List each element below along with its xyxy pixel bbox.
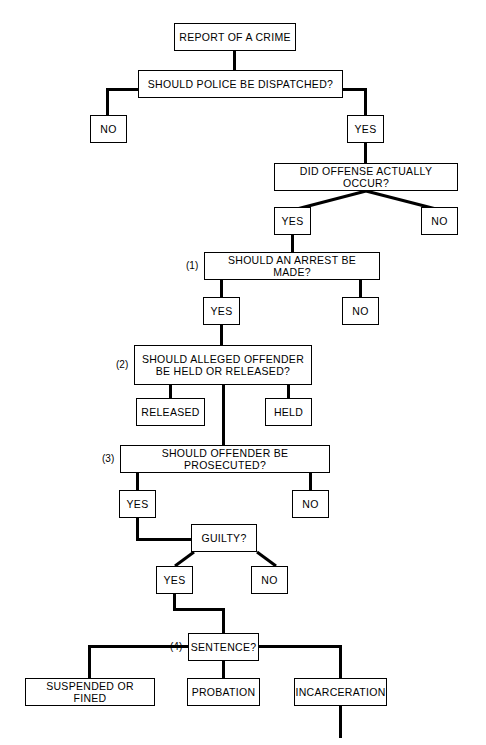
node-label: NO: [257, 574, 281, 586]
node-label: YES: [160, 574, 190, 586]
node-label: RELEASED: [137, 406, 203, 418]
node-label: NO: [298, 498, 322, 510]
node-label: SHOULD POLICE BE DISPATCHED?: [144, 78, 337, 90]
node-arrest-no[interactable]: NO: [342, 297, 379, 325]
flowchart-canvas: REPORT OF A CRIME SHOULD POLICE BE DISPA…: [0, 0, 486, 745]
node-dispatch-yes[interactable]: YES: [347, 115, 384, 143]
connector-dispatch-left-v: [106, 88, 109, 117]
node-prosecute-yes[interactable]: YES: [119, 490, 156, 518]
connector-report-to-dispatch: [233, 50, 236, 70]
node-should-offender-be-prosecuted[interactable]: SHOULD OFFENDER BE PROSECUTED?: [120, 445, 330, 473]
connector-arrest-yes-to-held: [220, 324, 223, 346]
node-label: GUILTY?: [197, 532, 250, 544]
node-should-police-be-dispatched[interactable]: SHOULD POLICE BE DISPATCHED?: [138, 70, 343, 98]
node-label: SUSPENDED OR FINED: [26, 680, 154, 704]
node-should-an-arrest-be-made[interactable]: SHOULD AN ARREST BE MADE?: [204, 252, 380, 280]
node-guilty-no[interactable]: NO: [251, 566, 288, 594]
node-prosecute-no[interactable]: NO: [292, 490, 329, 518]
connector-dispatch-right-v: [364, 88, 367, 117]
step-tag-4: (4): [170, 641, 182, 652]
connector-guilty-yes-to-sentence: [222, 608, 225, 634]
step-tag-1: (1): [186, 260, 198, 271]
step-tag-3: (3): [102, 453, 114, 464]
connector-incarceration-tail: [339, 705, 342, 738]
node-label: YES: [278, 215, 308, 227]
node-label: SHOULD OFFENDER BE PROSECUTED?: [121, 447, 329, 471]
node-report-of-a-crime[interactable]: REPORT OF A CRIME: [174, 23, 296, 51]
connector-held-to-prosecute: [222, 384, 225, 445]
node-incarceration[interactable]: INCARCERATION: [294, 678, 387, 706]
node-dispatch-no[interactable]: NO: [90, 115, 127, 143]
connector-sentence-left-v: [88, 645, 91, 679]
node-label: YES: [207, 305, 237, 317]
connector-held-to-released: [169, 384, 172, 399]
step-tag-2: (2): [116, 359, 128, 370]
node-arrest-yes[interactable]: YES: [203, 297, 240, 325]
connector-arrest-yes-v: [220, 279, 223, 298]
node-label: INCARCERATION: [291, 686, 389, 698]
connector-sentence-right-h: [258, 645, 342, 648]
connector-arrest-no-v: [359, 279, 362, 298]
node-offense-yes[interactable]: YES: [274, 207, 311, 235]
node-label: REPORT OF A CRIME: [175, 31, 294, 43]
connector-held-to-held: [287, 384, 290, 399]
connector-sentence-right-v: [339, 645, 342, 679]
connector-prosecute-yes-v: [136, 472, 139, 491]
node-released[interactable]: RELEASED: [136, 398, 205, 426]
node-label: HELD: [270, 406, 307, 418]
node-label: PROBATION: [188, 686, 260, 698]
node-label: YES: [351, 123, 381, 135]
connector-guilty-yes-right: [173, 608, 225, 611]
node-guilty[interactable]: GUILTY?: [191, 524, 257, 552]
connector-sentence-middle: [222, 660, 225, 679]
node-label: YES: [123, 498, 153, 510]
node-label: SHOULD AN ARREST BE MADE?: [205, 254, 379, 278]
node-suspended-or-fined[interactable]: SUSPENDED OR FINED: [25, 678, 155, 706]
node-probation[interactable]: PROBATION: [187, 678, 260, 706]
node-did-offense-actually-occur[interactable]: DID OFFENSE ACTUALLY OCCUR?: [274, 163, 458, 191]
node-label: NO: [348, 305, 372, 317]
node-sentence[interactable]: SENTENCE?: [188, 633, 259, 661]
node-label: DID OFFENSE ACTUALLY OCCUR?: [275, 165, 457, 189]
connector-yes-to-offense: [364, 142, 367, 165]
node-label: NO: [96, 123, 120, 135]
node-should-alleged-offender-be-held-or-released[interactable]: SHOULD ALLEGED OFFENDER BE HELD OR RELEA…: [134, 345, 312, 385]
node-label: SENTENCE?: [187, 641, 261, 653]
connector-offense-yes-v: [291, 234, 294, 254]
connector-dispatch-left-h: [106, 88, 140, 91]
node-offense-no[interactable]: NO: [421, 207, 458, 235]
node-guilty-yes[interactable]: YES: [156, 566, 193, 594]
node-held[interactable]: HELD: [265, 398, 312, 426]
node-label: NO: [427, 215, 451, 227]
connector-prosecute-yes-right: [136, 538, 193, 541]
node-label: SHOULD ALLEGED OFFENDER BE HELD OR RELEA…: [138, 353, 308, 377]
connector-prosecute-no-v: [309, 472, 312, 491]
